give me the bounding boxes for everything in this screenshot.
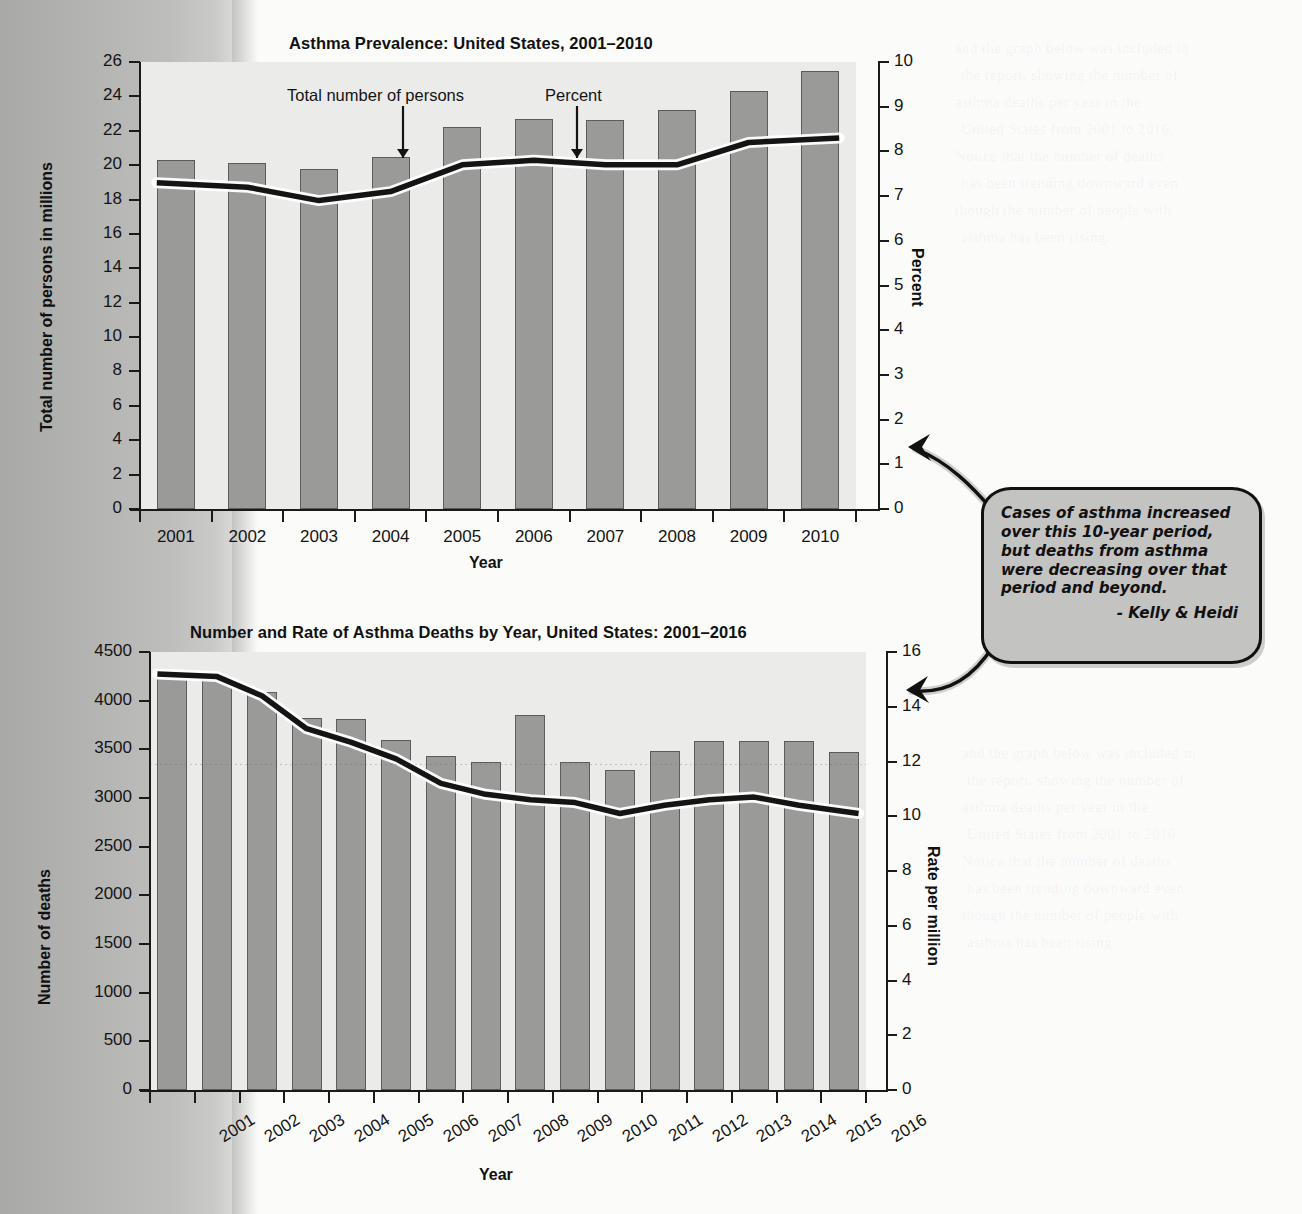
right-tick-label: 8 <box>894 140 903 160</box>
x-tick <box>569 511 571 522</box>
x-tick <box>328 1092 330 1103</box>
left-tick-label: 24 <box>88 85 122 105</box>
right-tick-label: 1 <box>894 453 903 473</box>
right-tick <box>886 980 897 982</box>
right-tick-label: 2 <box>894 409 903 429</box>
right-tick <box>878 150 889 152</box>
x-tick <box>712 511 714 522</box>
left-tick <box>139 943 150 945</box>
x-tick <box>282 511 284 522</box>
bar-2005 <box>336 719 366 1090</box>
x-tick <box>497 511 499 522</box>
bar-2005 <box>443 127 481 509</box>
left-tick <box>139 748 150 750</box>
chart2-y-axis-title: Number of deaths <box>36 869 54 1005</box>
right-tick <box>878 61 889 63</box>
right-tick <box>878 240 889 242</box>
bar-2009 <box>515 715 545 1090</box>
faint-gridline <box>150 764 866 765</box>
chart1-x-axis-title: Year <box>469 554 503 572</box>
left-tick-label: 26 <box>88 51 122 71</box>
right-tick-label: 0 <box>894 498 903 518</box>
x-tick <box>507 1092 509 1103</box>
left-tick <box>129 302 140 304</box>
bar-2010 <box>560 762 590 1090</box>
x-tick <box>686 1092 688 1103</box>
handwritten-callout: Cases of asthma increased over this 10-y… <box>981 487 1262 664</box>
left-tick <box>139 894 150 896</box>
left-tick <box>129 95 140 97</box>
x-tick-label-2006: 2006 <box>508 527 560 547</box>
left-tick <box>129 474 140 476</box>
callout-signature: - Kelly & Heidi <box>1001 604 1244 623</box>
x-tick <box>597 1092 599 1103</box>
left-tick <box>139 797 150 799</box>
left-tick-label: 2500 <box>72 836 132 856</box>
right-tick-label: 9 <box>894 96 903 116</box>
x-tick <box>149 1092 151 1103</box>
left-tick <box>139 651 150 653</box>
bar-2003 <box>247 692 277 1090</box>
right-tick <box>886 761 897 763</box>
left-tick-label: 1000 <box>72 982 132 1002</box>
x-tick <box>418 1092 420 1103</box>
x-tick <box>865 1092 867 1103</box>
left-axis-line <box>149 652 151 1091</box>
left-tick <box>129 439 140 441</box>
bar-2002 <box>202 679 232 1090</box>
left-tick-label: 14 <box>88 257 122 277</box>
right-tick-label: 4 <box>894 319 903 339</box>
left-tick <box>139 846 150 848</box>
right-tick-label: 12 <box>902 751 921 771</box>
left-tick <box>139 1089 150 1091</box>
x-tick <box>354 511 356 522</box>
chart1-bars <box>140 62 856 509</box>
right-tick-label: 16 <box>902 641 921 661</box>
right-tick-label: 3 <box>894 364 903 384</box>
bar-2011 <box>605 770 635 1090</box>
left-tick-label: 12 <box>88 292 122 312</box>
x-tick-label-2009: 2009 <box>723 527 775 547</box>
chart1-annotation-percent: Percent <box>545 86 602 105</box>
left-tick <box>129 233 140 235</box>
left-tick-label: 4000 <box>72 690 132 710</box>
right-tick <box>886 1034 897 1036</box>
x-tick-label-2007: 2007 <box>579 527 631 547</box>
x-tick-label-2003: 2003 <box>293 527 345 547</box>
x-tick <box>783 511 785 522</box>
right-tick <box>878 195 889 197</box>
x-tick-label-2001: 2001 <box>150 527 202 547</box>
x-tick <box>239 1092 241 1103</box>
bar-2015 <box>784 741 814 1090</box>
right-tick-label: 7 <box>894 185 903 205</box>
right-tick <box>878 508 889 510</box>
x-tick <box>855 511 857 522</box>
bar-2009 <box>730 91 768 509</box>
left-tick-label: 4500 <box>72 641 132 661</box>
x-tick <box>552 1092 554 1103</box>
chart1-plot-area <box>140 62 856 509</box>
left-tick-label: 18 <box>88 189 122 209</box>
bar-2012 <box>650 751 680 1090</box>
x-tick <box>425 511 427 522</box>
left-tick <box>129 405 140 407</box>
right-tick-label: 6 <box>902 915 911 935</box>
right-tick-label: 4 <box>902 970 911 990</box>
chart2-title: Number and Rate of Asthma Deaths by Year… <box>190 623 747 642</box>
right-tick <box>878 285 889 287</box>
bar-2014 <box>739 741 769 1090</box>
bar-2016 <box>829 752 859 1090</box>
left-tick <box>129 164 140 166</box>
left-tick-label: 8 <box>88 360 122 380</box>
bar-2007 <box>426 756 456 1090</box>
right-tick-label: 8 <box>902 860 911 880</box>
bar-2013 <box>694 741 724 1090</box>
left-tick-label: 2 <box>88 464 122 484</box>
x-tick <box>731 1092 733 1103</box>
left-tick-label: 3000 <box>72 787 132 807</box>
chart2-bars <box>150 652 866 1090</box>
left-tick-label: 2000 <box>72 884 132 904</box>
right-tick <box>886 870 897 872</box>
bar-2004 <box>292 718 322 1090</box>
x-tick <box>283 1092 285 1103</box>
